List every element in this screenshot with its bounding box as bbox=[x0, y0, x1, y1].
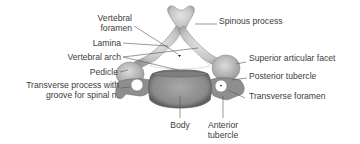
label-pedicle: Pedicle bbox=[60, 67, 118, 77]
right-transverse-process-shape bbox=[209, 78, 244, 100]
label-superior-articular-facet: Superior articular facet bbox=[249, 53, 335, 63]
label-line: Spinous process bbox=[219, 16, 283, 26]
right-articular-facet-shape bbox=[212, 55, 240, 81]
label-vertebral-foramen: Vertebral foramen bbox=[60, 13, 132, 33]
label-line: Lamina bbox=[60, 38, 121, 48]
label-line: Posterior tubercle bbox=[249, 71, 316, 81]
label-transverse-process: Transverse process with groove for spina… bbox=[4, 80, 119, 100]
label-vertebral-arch: Vertebral arch bbox=[30, 52, 121, 62]
label-line: foramen bbox=[60, 23, 132, 33]
label-line: Superior articular facet bbox=[249, 53, 335, 63]
label-line: Vertebral bbox=[60, 13, 132, 23]
label-line: Anterior bbox=[203, 120, 243, 130]
label-line: tubercle bbox=[203, 130, 243, 140]
label-line: Transverse foramen bbox=[249, 91, 326, 101]
label-posterior-tubercle: Posterior tubercle bbox=[249, 71, 316, 81]
label-line: groove for spinal n. bbox=[4, 90, 119, 100]
label-line: Transverse process with bbox=[4, 80, 119, 90]
label-line: Pedicle bbox=[60, 67, 118, 77]
label-anterior-tubercle: Anterior tubercle bbox=[203, 120, 243, 140]
label-transverse-foramen: Transverse foramen bbox=[249, 91, 326, 101]
label-line: Vertebral arch bbox=[30, 52, 121, 62]
label-line: Body bbox=[165, 120, 195, 130]
label-lamina: Lamina bbox=[60, 38, 121, 48]
left-transverse-foramen-shape bbox=[131, 79, 143, 91]
spinous-process-shape bbox=[168, 6, 195, 30]
label-spinous-process: Spinous process bbox=[219, 16, 283, 26]
label-body: Body bbox=[165, 120, 195, 130]
